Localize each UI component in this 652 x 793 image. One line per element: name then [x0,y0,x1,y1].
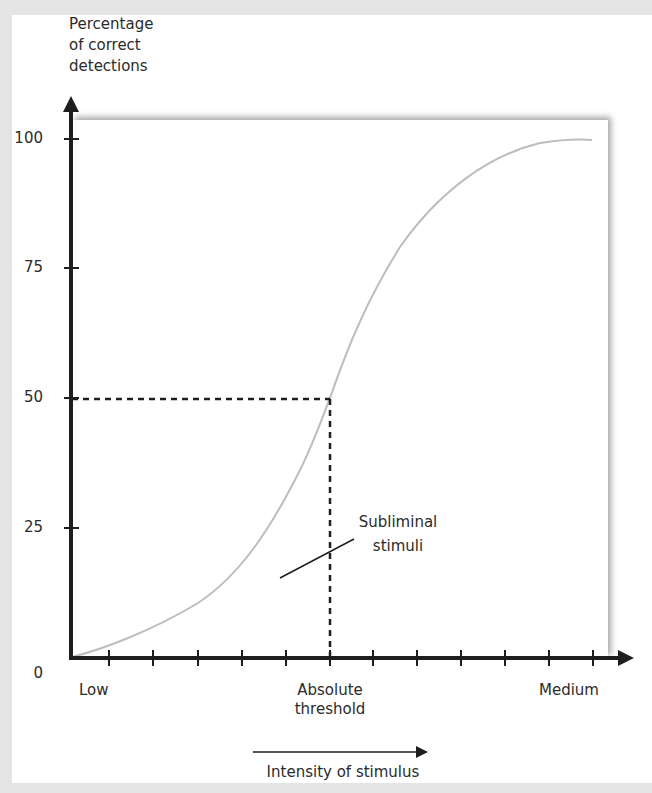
x-label-threshold: threshold [280,700,380,719]
chart-svg [0,0,652,793]
y-axis-title-line1: Percentage [69,15,153,34]
subliminal-leader-line [280,539,354,578]
intensity-arrowhead [416,746,428,758]
x-label-absolute: Absolute [280,681,380,700]
y-axis-title-line3: detections [69,57,148,76]
annotation-stimuli: stimuli [348,537,448,556]
y-tick-label-100: 100 [3,129,43,148]
x-label-medium: Medium [539,681,599,700]
y-tick-label-25: 25 [3,518,43,537]
annotation-subliminal: Subliminal [348,513,448,532]
y-axis-arrowhead [63,96,79,112]
y-tick-label-0: 0 [3,664,43,683]
y-axis-title-line2: of correct [69,36,141,55]
x-label-low: Low [79,681,109,700]
y-tick-label-50: 50 [3,388,43,407]
x-axis-arrowhead [618,650,634,666]
x-axis-title: Intensity of stimulus [233,763,453,782]
y-tick-label-75: 75 [3,258,43,277]
